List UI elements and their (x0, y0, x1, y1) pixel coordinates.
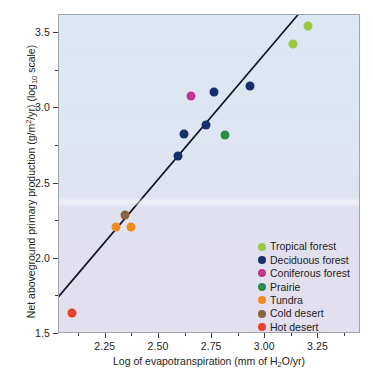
figure-container: 2.252.502.753.003.25 1.52.02.53.03.5 Log… (0, 0, 373, 380)
data-point (186, 92, 195, 101)
legend-label: Tropical forest (270, 241, 336, 252)
legend-swatch-dot-icon (258, 243, 266, 251)
legend-swatch-dot-icon (258, 323, 266, 331)
data-point (303, 21, 312, 30)
legend-item: Coniferous forest (258, 267, 350, 280)
y-axis-title-sup: 2 (24, 120, 33, 124)
data-point (246, 81, 255, 90)
y-axis-title-sub: 10 (30, 76, 39, 84)
data-point (174, 152, 183, 161)
y-axis-title-p1: Net aboveground primary production (g/m (25, 124, 37, 318)
y-tick (53, 107, 58, 108)
y-tick (53, 258, 58, 259)
y-tick (53, 183, 58, 184)
y-axis-title-p3: scale) (25, 45, 37, 76)
legend-item: Tundra (258, 294, 350, 307)
y-tick-minor (55, 295, 58, 296)
data-point (112, 223, 121, 232)
x-tick (317, 333, 318, 338)
legend-item: Prairie (258, 280, 350, 293)
x-tick-minor (131, 333, 132, 336)
x-tick-label: 3.00 (254, 340, 275, 352)
legend-item: Tropical forest (258, 240, 350, 253)
legend-label: Prairie (270, 282, 300, 293)
x-tick (211, 333, 212, 338)
x-tick-label: 2.25 (94, 340, 115, 352)
x-tick (158, 333, 159, 338)
legend: Tropical forestDeciduous forestConiferou… (258, 240, 350, 334)
x-tick (264, 333, 265, 338)
x-tick-minor (185, 333, 186, 336)
data-point (220, 131, 229, 140)
x-axis-title-after: O/yr) (282, 355, 305, 367)
legend-label: Cold desert (270, 308, 324, 319)
x-axis-title-before: Log of evapotranspiration (mm of H (113, 355, 278, 367)
y-tick (53, 32, 58, 33)
legend-label: Tundra (270, 295, 303, 306)
data-point (180, 129, 189, 138)
y-tick (53, 333, 58, 334)
legend-item: Deciduous forest (258, 253, 350, 266)
data-point (67, 308, 76, 317)
legend-item: Hot desert (258, 320, 350, 333)
data-point (210, 87, 219, 96)
x-axis-title: Log of evapotranspiration (mm of H2O/yr) (58, 355, 360, 369)
x-tick-minor (78, 333, 79, 336)
data-point (127, 223, 136, 232)
legend-label: Coniferous forest (270, 268, 350, 279)
x-tick-label: 2.75 (201, 340, 222, 352)
legend-swatch-dot-icon (258, 310, 266, 318)
x-tick-label: 3.25 (307, 340, 328, 352)
legend-swatch-dot-icon (258, 269, 266, 277)
data-point (120, 211, 129, 220)
legend-label: Deciduous forest (270, 255, 349, 266)
legend-swatch-dot-icon (258, 283, 266, 291)
legend-swatch-dot-icon (258, 296, 266, 304)
data-point (288, 39, 297, 48)
y-tick-minor (55, 220, 58, 221)
legend-label: Hot desert (270, 322, 318, 333)
y-tick-minor (55, 70, 58, 71)
data-point (201, 120, 210, 129)
y-axis-title: Net aboveground primary production (g/m2… (24, 17, 39, 347)
legend-item: Cold desert (258, 307, 350, 320)
legend-swatch-dot-icon (258, 256, 266, 264)
x-tick (105, 333, 106, 338)
y-tick-minor (55, 145, 58, 146)
x-tick-minor (238, 333, 239, 336)
x-tick-label: 2.50 (148, 340, 169, 352)
y-axis-title-p2: /yr) (log (25, 84, 37, 120)
